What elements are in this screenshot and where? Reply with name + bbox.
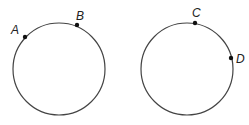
point-b [75, 23, 79, 27]
diagram-canvas: A B C D [0, 0, 249, 125]
point-c [193, 21, 197, 25]
point-a [23, 35, 27, 39]
label-d: D [236, 52, 245, 66]
label-b: B [76, 9, 84, 23]
label-a: A [10, 23, 19, 37]
label-c: C [192, 6, 201, 20]
right-circle [141, 23, 233, 115]
point-d [229, 56, 233, 60]
